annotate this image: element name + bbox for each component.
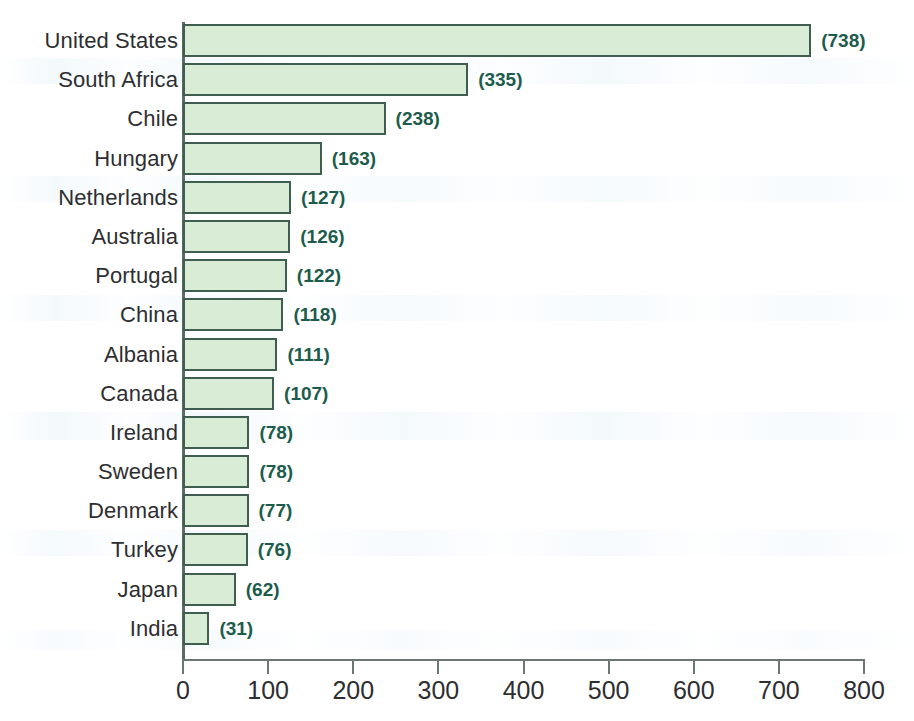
- x-axis-tick-label: 200: [332, 676, 374, 705]
- x-axis-tick: [352, 661, 354, 674]
- bar-chart: United States(738)South Africa(335)Chile…: [0, 0, 914, 721]
- x-axis-tick-label: 600: [673, 676, 715, 705]
- x-axis-tick-label: 800: [843, 676, 885, 705]
- x-axis-ticks: 0100200300400500600700800: [0, 0, 914, 721]
- x-axis-tick: [608, 661, 610, 674]
- x-axis-tick-label: 100: [247, 676, 289, 705]
- x-axis-tick: [523, 661, 525, 674]
- x-axis-tick: [267, 661, 269, 674]
- x-axis-tick: [778, 661, 780, 674]
- x-axis-tick-label: 500: [588, 676, 630, 705]
- chart-page: United States(738)South Africa(335)Chile…: [0, 0, 914, 721]
- x-axis-tick: [693, 661, 695, 674]
- x-axis-tick-label: 400: [503, 676, 545, 705]
- x-axis-tick: [437, 661, 439, 674]
- x-axis-tick: [182, 661, 184, 674]
- x-axis-tick-label: 700: [758, 676, 800, 705]
- x-axis-tick: [863, 661, 865, 674]
- x-axis-tick-label: 300: [418, 676, 460, 705]
- x-axis-tick-label: 0: [176, 676, 190, 705]
